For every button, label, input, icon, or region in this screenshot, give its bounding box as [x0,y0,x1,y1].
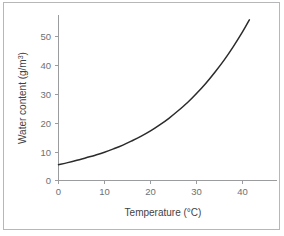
x-tick-label-30: 30 [191,186,202,197]
x-tick-label-20: 20 [145,186,156,197]
data-curve-saturation-water-content [59,20,250,165]
y-tick-label-40: 40 [40,60,51,71]
x-tick-label-40: 40 [237,186,248,197]
y-tick-label-20: 20 [40,118,51,129]
y-axis-tick-labels: 0 10 20 30 40 50 [40,31,51,186]
plot-area: 0 10 20 30 40 50 0 10 20 30 40 [0,0,284,236]
y-tick-label-30: 30 [40,89,51,100]
y-axis-ticks [55,37,59,181]
y-tick-label-0: 0 [46,175,51,186]
x-tick-label-10: 10 [99,186,110,197]
y-tick-label-10: 10 [40,147,51,158]
y-axis-title-close: ) [17,52,28,55]
y-tick-label-50: 50 [40,31,51,42]
x-axis-title: Temperature (°C) [125,207,202,218]
line-chart: 0 10 20 30 40 50 0 10 20 30 40 [0,0,284,236]
x-tick-label-0: 0 [56,186,61,197]
figure-container: 0 10 20 30 40 50 0 10 20 30 40 [0,0,284,236]
y-axis-title: Water content (g/m3) [17,52,29,144]
svg-text:Water content (g/m3): Water content (g/m3) [17,52,29,144]
x-axis-title-unit: °C) [187,207,202,218]
x-axis-title-base: Temperature ( [125,207,188,218]
x-axis-ticks [59,181,243,185]
x-axis-tick-labels: 0 10 20 30 40 [56,186,248,197]
y-axis-title-base: Water content (g/m [17,59,28,144]
